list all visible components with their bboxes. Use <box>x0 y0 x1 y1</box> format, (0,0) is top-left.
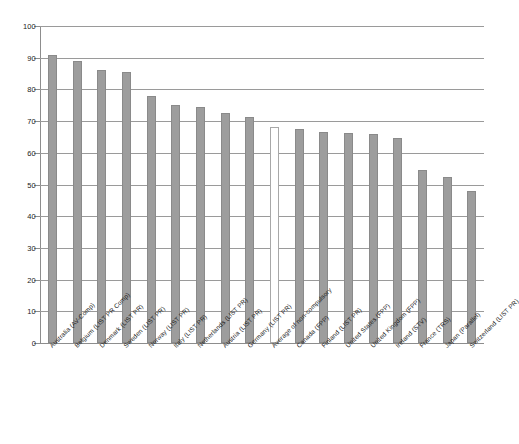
bar <box>221 113 230 343</box>
y-tick-label-40: 40 <box>6 212 36 221</box>
y-tick-label-70: 70 <box>6 117 36 126</box>
y-tick-label-20: 20 <box>6 275 36 284</box>
y-tick-label-60: 60 <box>6 148 36 157</box>
bar <box>73 61 82 343</box>
y-tick-label-100: 100 <box>6 22 36 31</box>
y-tick-label-0: 0 <box>6 339 36 348</box>
bar <box>48 55 57 343</box>
bar <box>147 96 156 343</box>
y-axis: 0102030405060708090100 <box>0 26 36 343</box>
y-tick-label-50: 50 <box>6 180 36 189</box>
bar-series <box>40 26 484 343</box>
bar <box>97 70 106 343</box>
bar <box>245 117 254 343</box>
y-tick-label-90: 90 <box>6 53 36 62</box>
x-axis-labels: Australia (AV-Comp)Belgium (LIST PR Comp… <box>40 344 484 444</box>
bar <box>319 132 328 343</box>
bar <box>171 105 180 343</box>
y-tick-label-30: 30 <box>6 243 36 252</box>
y-tick-label-10: 10 <box>6 307 36 316</box>
y-tick-label-80: 80 <box>6 85 36 94</box>
bar <box>196 107 205 343</box>
